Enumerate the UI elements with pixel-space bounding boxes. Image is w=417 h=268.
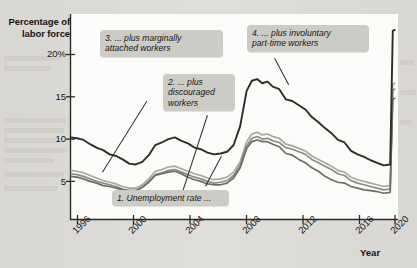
callout-unemployment-rate[interactable]: 1. Unemployment rate ... bbox=[112, 190, 229, 206]
unemployment-measures-chart: Percentage of labor force Year 20% 15 10… bbox=[0, 0, 417, 268]
callout-involuntary-part-time[interactable]: 4. ... plus involuntary part-time worker… bbox=[247, 25, 369, 52]
callout-discouraged-workers[interactable]: 2. ... plus discouraged workers bbox=[163, 74, 235, 111]
callout-marginally-attached[interactable]: 3. ... plus marginally attached workers bbox=[100, 30, 223, 57]
